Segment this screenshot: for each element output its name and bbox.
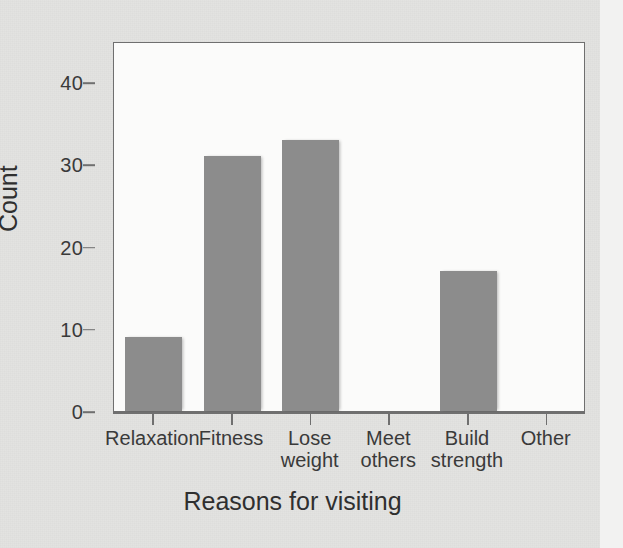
y-tick-label: 10 (60, 318, 83, 341)
y-tick-mark (83, 247, 95, 249)
y-tick-mark (83, 165, 95, 167)
y-tick-label: 20 (60, 236, 83, 259)
x-axis-title: Reasons for visiting (0, 487, 585, 516)
plot-frame (113, 42, 585, 412)
bar-lose-weight (282, 140, 339, 411)
x-tick-mark (231, 412, 233, 425)
x-tick-mark (546, 412, 548, 425)
y-tick-mark (83, 329, 95, 331)
bar-chart-figure: Count 010203040 Reasons for visiting Rel… (0, 0, 623, 548)
x-tick-label: Fitness (199, 428, 263, 450)
y-tick-mark (83, 411, 95, 413)
x-tick-label: Other (521, 428, 571, 450)
x-tick-label: Meet others (361, 428, 417, 471)
bar-relaxation (125, 337, 182, 411)
x-tick-mark (152, 412, 154, 425)
y-tick-label: 0 (72, 401, 83, 424)
plot-area (114, 43, 584, 411)
x-tick-mark (467, 412, 469, 425)
y-tick-label: 30 (60, 154, 83, 177)
x-tick-label: Lose weight (281, 428, 339, 471)
bar-fitness (204, 156, 261, 411)
bar-build-strength (440, 271, 497, 411)
x-tick-label: Build strength (431, 428, 503, 471)
x-tick-mark (310, 412, 312, 425)
y-tick-mark (83, 82, 95, 84)
y-axis: Count 010203040 (0, 0, 113, 548)
x-axis-line (113, 412, 585, 414)
x-tick-label: Relaxation (105, 428, 200, 450)
y-axis-title: Count (0, 165, 23, 232)
y-tick-label: 40 (60, 72, 83, 95)
x-tick-mark (388, 412, 390, 425)
